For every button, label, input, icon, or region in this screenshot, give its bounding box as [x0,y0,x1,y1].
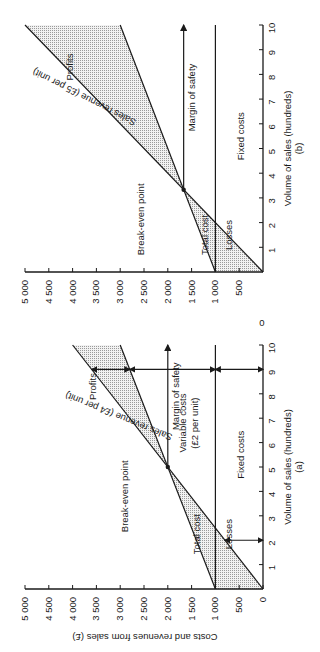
variable-costs-label: Variable costs [177,393,188,452]
cost-tick-label: 4 500 [43,280,54,304]
cost-tick-label: 1 000 [209,280,220,304]
break-even-figure: 5001 0001 5002 0002 5003 0003 5004 0004 … [0,0,320,652]
fixed-costs-label: Fixed costs [235,112,246,160]
x-axis-title: Volume of sales (hundreds) [282,91,293,207]
volume-tick-label: 5 [266,149,277,154]
volume-tick-label: 2 [266,541,277,546]
chart-panel-b: 5001 0001 5002 0002 5003 0003 5004 0004 … [19,23,304,304]
cost-tick-label: 3 500 [90,280,101,304]
chart-panel-a: 05001 0001 5002 0002 5003 0003 5004 0004… [19,343,304,643]
cost-tick-label: 3 000 [114,597,125,621]
cost-tick-label: 4 500 [43,597,54,621]
cost-tick-label: 4 000 [67,597,78,621]
variable-costs-sublabel: (£2 per unit) [189,397,200,448]
panel-caption: (a) [293,461,304,473]
volume-tick-label: 4 [266,174,277,179]
break-even-charts-svg: 5001 0001 5002 0002 5003 0003 5004 0004 … [0,0,320,652]
break-even-point-marker [166,465,170,469]
cost-tick-label: 2 000 [162,280,173,304]
volume-tick-label: 3 [266,516,277,521]
margin-of-safety-label: Margin of safety [186,63,197,131]
cost-tick-label: 1 000 [209,597,220,621]
cost-tick-label: 500 [233,597,244,613]
cost-tick-label: 500 [233,280,244,296]
volume-tick-label: 7 [266,419,277,424]
break-even-point-marker [181,188,185,192]
x-axis-title: Volume of sales (hundreds) [282,409,293,525]
cost-tick-label: 5 000 [19,280,30,304]
break-even-point-label: Break-even point [135,183,146,255]
volume-tick-label: 6 [266,124,277,129]
volume-tick-label: 1 [266,565,277,570]
losses-label: Losses [223,519,234,549]
cost-tick-label: 2 500 [138,280,149,304]
volume-tick-label: 8 [266,394,277,399]
volume-tick-label: 10 [266,343,277,354]
profits-label: Profits [87,373,98,400]
total-cost-label: Total cost [191,514,202,554]
cost-tick-label: 3 000 [114,280,125,304]
volume-tick-label: 2 [266,223,277,228]
stray-mark: 0 [259,317,264,328]
volume-tick-label: 7 [266,99,277,104]
losses-label: Losses [223,220,234,250]
volume-tick-label: 1 [266,248,277,253]
fixed-costs-label: Fixed costs [235,431,246,479]
volume-tick-label: 10 [266,23,277,34]
cost-tick-label: 3 500 [90,597,101,621]
cost-tick-label: 0 [257,597,268,602]
volume-tick-label: 5 [266,467,277,472]
total-cost-label: Total cost [199,215,210,255]
panel-caption: (b) [293,143,304,155]
volume-tick-label: 8 [266,75,277,80]
cost-tick-label: 5 000 [19,597,30,621]
volume-tick-label: 9 [266,50,277,55]
volume-tick-label: 9 [266,370,277,375]
cost-tick-label: 2 000 [162,597,173,621]
y-axis-title: Costs and revenues from sales (£) [72,632,217,643]
volume-tick-label: 4 [266,492,277,497]
cost-tick-label: 2 500 [138,597,149,621]
break-even-point-label: Break-even point [119,460,130,532]
cost-tick-label: 1 500 [186,597,197,621]
profits-label: Profits [64,53,75,80]
cost-tick-label: 4 000 [67,280,78,304]
volume-tick-label: 3 [266,198,277,203]
cost-tick-label: 1 500 [186,280,197,304]
volume-tick-label: 6 [266,443,277,448]
